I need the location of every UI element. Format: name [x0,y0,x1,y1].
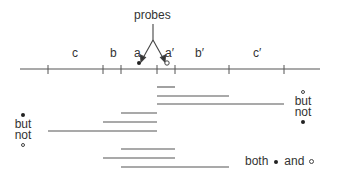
segment-label-b: b [110,47,117,59]
open-ring-icon [309,159,314,164]
filled-probe-dot [137,61,141,65]
filled-dot-icon [301,120,305,124]
probes-label: probes [134,9,171,21]
segment-label-c: c [72,47,78,59]
bar-group-open-but-not-filled [157,87,284,104]
bar-group-filled-but-not-open [48,113,157,131]
both-text: both [245,154,268,168]
diagram-canvas [0,0,337,177]
open-ring-icon [21,143,25,147]
segment-label-a-prime: a′ [165,47,174,59]
segment-label-a: a [134,47,141,59]
right-not-text: not [295,105,312,119]
both-legend: bothand [245,155,314,167]
bar-group-both [103,149,229,167]
left-annotation: but not [13,111,33,149]
right-annotation: but not [293,88,313,126]
segment-label-b-prime: b′ [195,47,204,59]
segment-label-c-prime: c′ [253,47,261,59]
probe-arrows [141,24,166,62]
left-not-text: not [15,128,32,142]
and-text: and [284,154,304,168]
filled-dot-icon [274,160,278,164]
open-probe-ring [165,61,169,65]
